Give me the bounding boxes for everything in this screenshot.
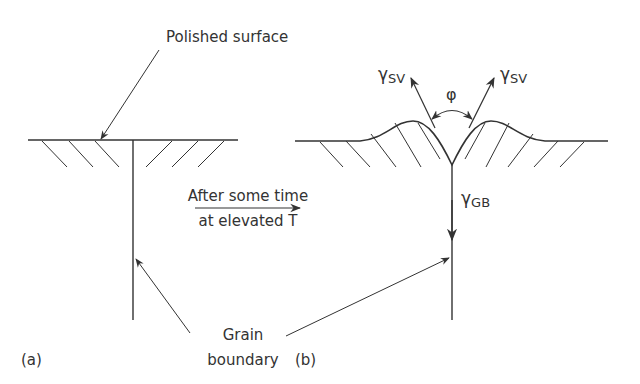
- transition-text-line1: After some time: [188, 187, 308, 205]
- grain-boundary-label-line1: Grain: [223, 326, 264, 344]
- panel-a: [28, 50, 238, 320]
- grain-boundary-label-line2: boundary: [207, 351, 279, 369]
- gamma-sv-left-label: γSV: [378, 64, 405, 86]
- polished-surface-arrow: [101, 50, 159, 139]
- panel-b: [295, 78, 608, 320]
- dihedral-angle-arc: [432, 111, 472, 120]
- panel-b-label: (b): [295, 351, 316, 369]
- panel-a-label: (a): [21, 351, 42, 369]
- dihedral-angle-label: φ: [446, 85, 457, 104]
- grain-boundary-pointer-a: [136, 259, 190, 333]
- hatch-marks-b: [320, 123, 584, 167]
- grooved-surface-profile: [295, 121, 608, 165]
- thermal-grooving-diagram: Polished surface (a) After some time at …: [0, 0, 640, 384]
- gamma-sv-right-label: γSV: [500, 64, 527, 86]
- gamma-gb-label: γGB: [461, 188, 490, 210]
- polished-surface-label: Polished surface: [166, 28, 288, 46]
- grain-boundary-pointer-b-visible: [286, 258, 449, 336]
- transition-text-line2: at elevated T: [198, 212, 298, 230]
